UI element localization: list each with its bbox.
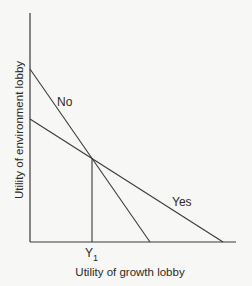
utility-diagram: No Yes Y1 Utility of growth lobby Utilit…	[0, 0, 252, 286]
no-line	[30, 69, 150, 242]
yes-line	[30, 119, 223, 242]
y-axis-label: Utility of environment lobby	[13, 61, 25, 199]
intersection-label: Y1	[85, 246, 98, 263]
no-line-label: No	[57, 95, 73, 109]
yes-line-label: Yes	[172, 195, 192, 209]
x-axis-label: Utility of growth lobby	[75, 266, 185, 278]
diagram-canvas: No Yes Y1 Utility of growth lobby Utilit…	[0, 0, 252, 286]
